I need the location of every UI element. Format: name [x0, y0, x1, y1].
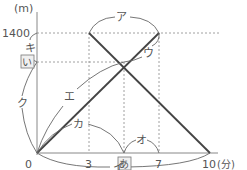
x-tick-10: 10 [202, 158, 216, 170]
x-tick-7: 7 [155, 158, 162, 170]
label-ka: カ [73, 118, 84, 131]
y-tick-1400: 1400 [2, 27, 30, 40]
distance-time-diagram: (m) 1400 い 0 3 あ 7 10 (分) ア イ ウ エ オ カ キ … [0, 0, 247, 170]
label-i: イ [113, 161, 124, 170]
brace-i-left [37, 153, 110, 167]
brace-o-left [124, 140, 136, 153]
label-ku: ク [17, 97, 28, 110]
brace-a-left [89, 17, 115, 33]
label-u: ウ [143, 47, 154, 60]
label-o: オ [136, 134, 147, 147]
x-tick-3: 3 [85, 158, 92, 170]
brace-ku-bottom [22, 108, 37, 153]
brace-ki-top [30, 33, 37, 40]
x-unit-label: (分) [217, 159, 235, 170]
label-ki: キ [25, 42, 36, 55]
brace-i-right [128, 153, 210, 167]
y-tick-i: い [22, 57, 32, 68]
brace-ka-right [88, 124, 124, 153]
y-unit-label: (m) [14, 2, 33, 15]
brace-e-lower [37, 106, 63, 153]
label-a: ア [116, 11, 127, 24]
label-e: エ [64, 90, 75, 103]
brace-o-right [147, 140, 159, 153]
origin-label: 0 [25, 158, 32, 170]
brace-arcs [22, 17, 210, 167]
brace-a-right [130, 17, 159, 33]
